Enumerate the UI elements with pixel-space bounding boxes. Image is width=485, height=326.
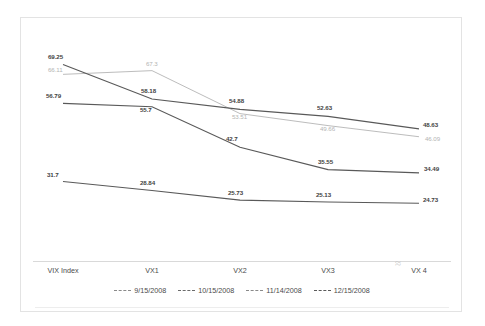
x-axis-tick-1: VX1 — [145, 266, 159, 275]
x-axis-tick-2: VX2 — [233, 266, 247, 275]
data-label: 69.25 — [48, 53, 63, 60]
data-label: 25.13 — [316, 191, 331, 198]
legend-item-0[interactable]: 9/15/2008 — [114, 286, 166, 295]
data-label: 34.49 — [424, 165, 439, 172]
chart-container: 66.1167.353.5149.6646.0969.2558.1854.885… — [20, 17, 462, 312]
legend-label: 12/15/2008 — [334, 286, 370, 295]
data-label: 56.79 — [46, 92, 61, 99]
legend-item-1[interactable]: 10/15/2008 — [178, 286, 234, 295]
data-label: 46.09 — [425, 135, 440, 142]
legend-item-3[interactable]: 12/15/2008 — [314, 286, 370, 295]
legend-label: 10/15/2008 — [198, 286, 234, 295]
legend-dash-icon — [178, 290, 195, 291]
data-label: 35.55 — [318, 158, 333, 165]
legend-label: 11/14/2008 — [266, 286, 301, 295]
legend-dash-icon — [314, 290, 331, 291]
data-label: 24.73 — [423, 196, 438, 203]
x-axis-tick-4: VX 4 — [411, 266, 427, 275]
chart-legend: 9/15/200810/15/200811/14/200812/15/2008 — [21, 286, 463, 295]
data-label: 31.7 — [47, 171, 59, 178]
legend-label: 9/15/2008 — [134, 286, 166, 295]
data-label: 53.51 — [232, 113, 247, 120]
data-label: 54.88 — [229, 97, 244, 104]
data-label: 28.84 — [140, 179, 155, 186]
legend-dash-icon — [246, 290, 263, 291]
x-axis-tick-3: VX3 — [321, 266, 335, 275]
legend-item-2[interactable]: 11/14/2008 — [246, 286, 301, 295]
data-label: 48.63 — [423, 121, 438, 128]
x-axis-tick-labels: VIX IndexVX1VX2VX3VX 4 — [21, 266, 463, 282]
data-label: 67.3 — [146, 60, 158, 67]
data-label: 58.18 — [141, 87, 156, 94]
x-axis-tick-0: VIX Index — [47, 266, 78, 275]
data-label: 42.7 — [226, 135, 238, 142]
data-label: 66.11 — [48, 66, 63, 73]
data-label: 52.63 — [317, 104, 332, 111]
x-axis-line — [33, 261, 451, 262]
data-label: 49.66 — [320, 125, 335, 132]
data-label: 25.73 — [228, 189, 243, 196]
data-label: 55.7 — [140, 106, 152, 113]
legend-dash-icon — [114, 290, 131, 291]
legend-divider — [35, 307, 449, 308]
